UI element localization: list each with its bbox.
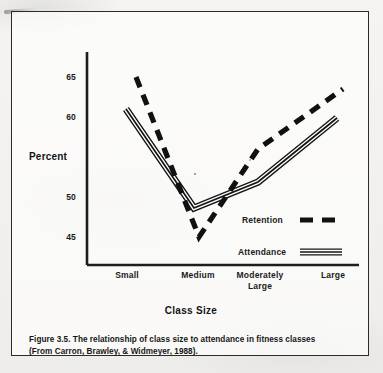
chart-plot-area: 65 60 50 45 Percent <box>12 12 370 357</box>
series-line-attendance <box>126 109 337 208</box>
x-axis-tick-label-large: Large <box>309 270 357 281</box>
series-line-retention <box>136 77 343 237</box>
scan-speck <box>249 159 251 161</box>
x-axis-tick-label-small: Small <box>98 270 156 281</box>
figure-caption-line1: Figure 3.5. The relationship of class si… <box>29 335 315 344</box>
figure-caption-line2: (From Carron, Brawley, & Widmeyer, 1988)… <box>29 347 198 356</box>
figure-caption: Figure 3.5. The relationship of class si… <box>29 334 359 357</box>
x-axis-tick-label-moderately-large: Moderately Large <box>227 270 293 292</box>
x-tick-text-line2: Large <box>248 281 272 291</box>
x-tick-text-line1: Moderately <box>237 270 284 280</box>
x-axis-tick-label-medium: Medium <box>167 270 229 281</box>
scan-speck <box>194 173 196 175</box>
x-tick-text: Large <box>321 270 345 280</box>
legend-label-attendance: Attendance <box>238 247 286 257</box>
x-tick-text: Small <box>115 270 139 280</box>
x-axis-title: Class Size <box>12 305 370 316</box>
x-tick-text: Medium <box>181 270 214 280</box>
figure-frame: 65 60 50 45 Percent <box>11 11 369 356</box>
legend-label-retention: Retention <box>242 215 283 225</box>
